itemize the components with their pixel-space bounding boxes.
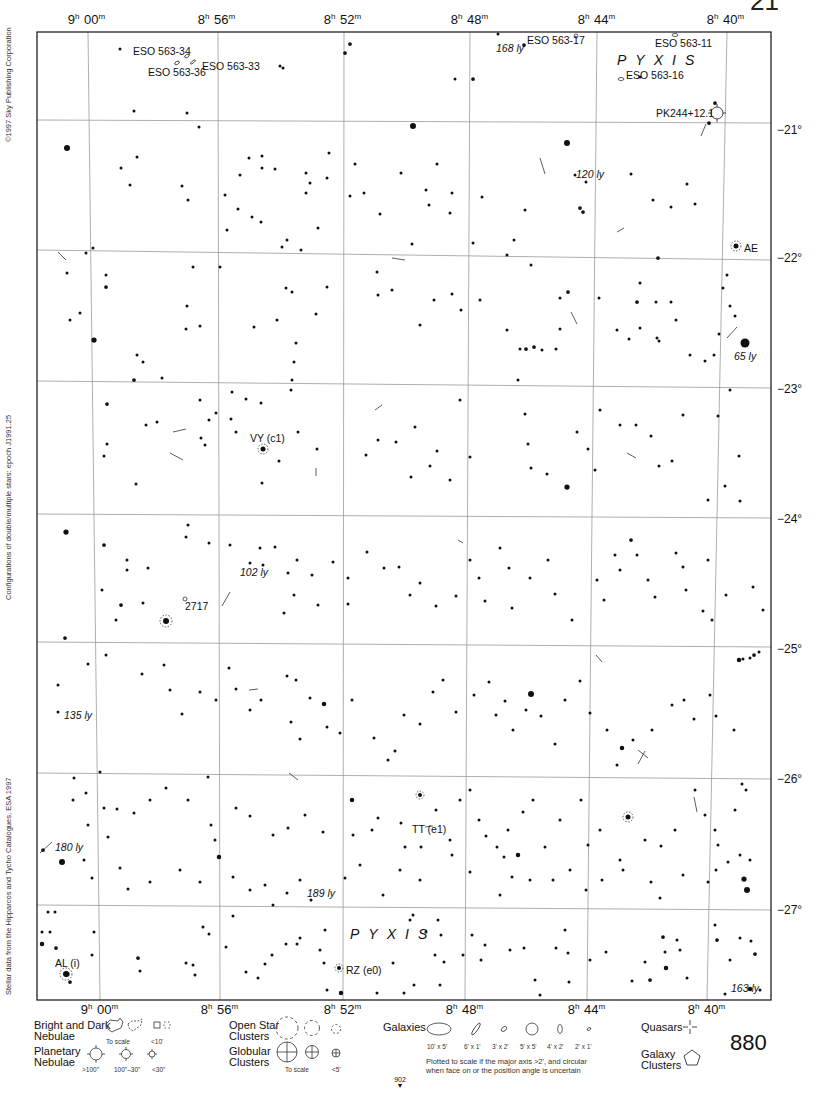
object-label[interactable]: AE — [744, 242, 758, 254]
object-label[interactable]: PK244+12.1 — [656, 107, 714, 119]
object-label[interactable]: 189 ly — [307, 887, 335, 899]
proper-motion-line — [617, 228, 624, 232]
star-dot — [451, 192, 454, 195]
star-dot — [304, 814, 307, 817]
proper-motion-line — [571, 312, 577, 324]
star-dot — [739, 854, 742, 857]
star-dot — [564, 484, 569, 489]
object-label[interactable]: 180 ly — [55, 841, 83, 853]
star-dot — [235, 807, 238, 810]
galaxy-note-line-2: when face on or the position angle is un… — [426, 1066, 626, 1075]
star-dot — [116, 808, 119, 811]
star-dot — [503, 856, 506, 859]
star-dot — [434, 954, 437, 957]
star-dot — [352, 834, 355, 837]
variable-star-dot — [261, 447, 266, 452]
star-dot — [249, 562, 252, 565]
object-label[interactable]: RZ (e0) — [346, 964, 382, 976]
object-label[interactable]: ESO 563-17 — [527, 34, 585, 46]
object-label[interactable]: 168 ly — [496, 42, 524, 54]
star-dot — [149, 881, 152, 884]
star-dot — [544, 846, 547, 849]
star-dot — [587, 448, 590, 451]
star-dot — [660, 845, 663, 848]
object-label[interactable]: 120 ly — [576, 168, 604, 180]
star-dot — [451, 293, 454, 296]
star-dot — [215, 699, 218, 702]
star-dot — [295, 342, 298, 345]
star-dot — [499, 547, 502, 550]
star-dot — [585, 889, 588, 892]
object-label[interactable]: ESO 563-16 — [626, 69, 684, 81]
star-dot — [676, 939, 679, 942]
object-label[interactable]: VY (c1) — [250, 432, 285, 444]
legend-planetary-title-2: Nebulae — [34, 1057, 80, 1068]
star-dot — [511, 876, 514, 879]
adjacent-chart-link[interactable]: 902 ▼ — [390, 1076, 410, 1089]
star-dot — [103, 807, 106, 810]
star-dot — [469, 789, 472, 792]
star-dot — [194, 974, 197, 977]
object-label[interactable]: 163 ly — [731, 982, 759, 994]
star-dot — [516, 853, 521, 858]
star-dot — [136, 156, 139, 159]
star-dot — [309, 697, 312, 700]
object-label[interactable]: 2717 — [185, 600, 208, 612]
star-dot — [87, 824, 90, 827]
star-dot — [219, 266, 222, 269]
star-dot — [73, 777, 76, 780]
star-dot — [249, 709, 252, 712]
object-label[interactable]: TT (e1) — [412, 823, 446, 835]
star-dot — [704, 360, 707, 363]
star-dot — [546, 473, 549, 476]
object-label[interactable]: ESO 563-36 — [148, 66, 206, 78]
star-dot — [679, 949, 682, 952]
star-dot — [85, 252, 88, 255]
star-dot — [120, 167, 123, 170]
star-dot — [245, 971, 248, 974]
star-dot — [354, 163, 357, 166]
object-label[interactable]: ESO 563-34 — [133, 45, 191, 57]
star-dot — [469, 871, 472, 874]
object-label[interactable]: 102 ly — [240, 566, 268, 578]
star-dot — [734, 809, 737, 812]
star-dot — [567, 952, 570, 955]
star-dot — [344, 877, 347, 880]
star-dot — [576, 431, 579, 434]
star-dot — [103, 455, 106, 458]
object-label[interactable]: ESO 563-33 — [202, 60, 260, 72]
star-dot — [619, 859, 622, 862]
star-dot — [628, 338, 631, 341]
star-dot — [398, 566, 401, 569]
object-label[interactable]: AL (i) — [55, 957, 80, 969]
star-dot — [136, 354, 139, 357]
star-dot — [239, 174, 242, 177]
star-dot — [323, 962, 326, 965]
proper-motion-line — [540, 158, 545, 174]
object-label[interactable]: 65 ly — [734, 350, 756, 362]
star-dot — [235, 688, 238, 691]
star-dot — [495, 714, 498, 717]
star-dot — [311, 574, 314, 577]
object-label[interactable]: ESO 563-11 — [655, 37, 712, 49]
legend-galaxy-clusters-title-2: Clusters — [641, 1060, 681, 1071]
star-dot — [436, 450, 439, 453]
star-dot — [317, 604, 320, 607]
star-dot — [750, 940, 753, 943]
star-dot — [508, 567, 511, 570]
star-dot — [181, 713, 184, 716]
star-dot — [745, 789, 748, 792]
star-dot — [504, 700, 507, 703]
star-dot — [299, 738, 302, 741]
star-dot — [529, 879, 532, 882]
object-label[interactable]: 135 ly — [64, 709, 92, 721]
star-dot — [259, 547, 262, 550]
star-dot — [744, 887, 750, 893]
planetary-nebula-symbols-icon — [84, 1044, 170, 1064]
star-dot — [161, 377, 164, 380]
star-dot — [739, 937, 742, 940]
star-dot — [632, 739, 635, 742]
star-dot — [724, 485, 727, 488]
star-dot — [471, 77, 475, 81]
proper-motion-line — [289, 773, 298, 780]
